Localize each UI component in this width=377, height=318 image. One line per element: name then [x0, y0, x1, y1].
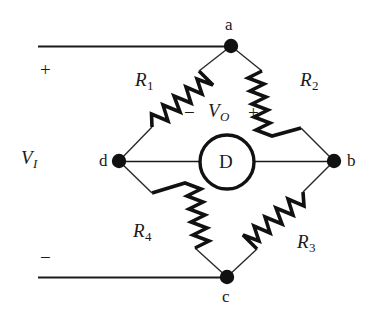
resistor-R3-subscript: 3	[309, 240, 316, 255]
detector-label: D	[219, 152, 233, 171]
resistor-label-R2: R2	[300, 70, 318, 92]
output-voltage-name: V	[208, 100, 220, 121]
node-dot-b	[327, 154, 341, 168]
source-plus-sign: +	[40, 60, 51, 79]
resistor-R1-zigzag	[152, 71, 214, 127]
source-voltage-label: VI	[21, 148, 37, 170]
resistor-R4-subscript: 4	[145, 229, 152, 244]
resistor-R4-zigzag	[152, 183, 209, 248]
resistor-R2-subscript: 2	[312, 78, 319, 93]
source-minus-sign: −	[40, 248, 51, 267]
resistor-label-R4: R4	[133, 221, 151, 243]
wheatstone-bridge-figure: a b c d D R1 R2 R3 R4 VI + − − VO +	[0, 0, 377, 318]
resistor-R4-name: R	[133, 220, 145, 241]
resistor-label-R1: R1	[135, 70, 153, 92]
node-label-b: b	[347, 152, 356, 169]
resistor-R3-name: R	[297, 231, 309, 252]
source-voltage-name: V	[21, 147, 33, 168]
output-minus-sign: −	[184, 103, 195, 122]
output-voltage-subscript: O	[220, 109, 229, 124]
resistor-R2-name: R	[300, 69, 312, 90]
resistor-R1-subscript: 1	[147, 78, 154, 93]
node-label-c: c	[222, 288, 230, 305]
output-plus-sign: +	[248, 103, 259, 122]
node-dot-d	[112, 154, 126, 168]
node-dot-c	[220, 270, 234, 284]
circuit-drawing	[0, 0, 377, 318]
source-voltage-subscript: I	[33, 156, 37, 171]
resistor-R3-zigzag	[243, 192, 304, 249]
node-label-d: d	[99, 152, 108, 169]
resistor-label-R3: R3	[297, 232, 315, 254]
output-voltage-label: VO	[208, 101, 230, 123]
node-dot-a	[224, 39, 238, 53]
resistor-R1-name: R	[135, 69, 147, 90]
node-label-a: a	[225, 16, 233, 33]
